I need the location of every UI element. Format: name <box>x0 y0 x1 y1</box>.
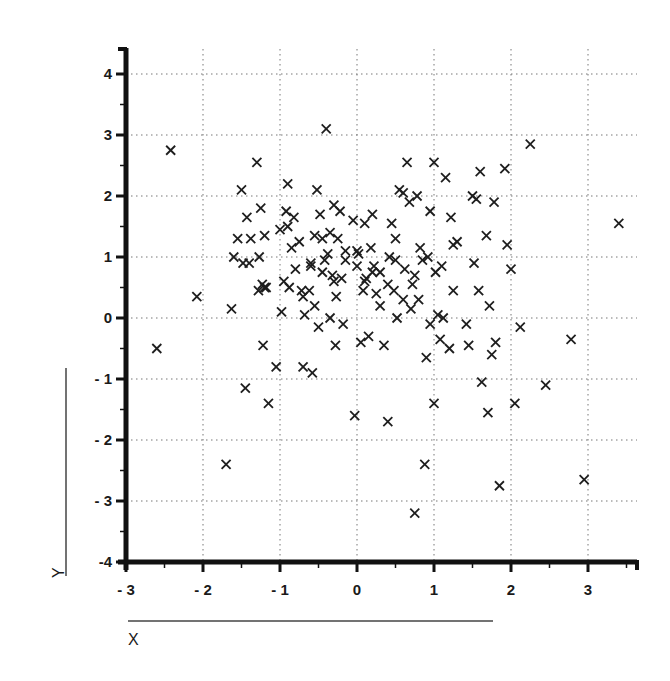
data-point-marker <box>300 310 309 319</box>
data-point-marker <box>233 234 242 243</box>
x-tick-label: - 1 <box>271 581 289 598</box>
data-point-marker <box>376 268 385 277</box>
data-point-marker <box>462 320 471 329</box>
data-point-marker <box>256 204 265 213</box>
data-point-marker <box>383 417 392 426</box>
data-point-marker <box>277 307 286 316</box>
data-point-marker <box>310 231 319 240</box>
data-point-marker <box>507 265 516 274</box>
data-points <box>152 124 623 517</box>
data-point-marker <box>337 274 346 283</box>
data-point-marker <box>282 207 291 216</box>
data-point-marker <box>408 280 417 289</box>
x-tick-label: 0 <box>353 581 361 598</box>
data-point-marker <box>246 234 255 243</box>
data-point-marker <box>387 219 396 228</box>
data-point-marker <box>403 158 412 167</box>
data-point-marker <box>470 259 479 268</box>
data-point-marker <box>166 146 175 155</box>
x-tick-label: 2 <box>507 581 515 598</box>
data-point-marker <box>359 286 368 295</box>
data-point-marker <box>436 335 445 344</box>
data-point-marker <box>328 271 337 280</box>
x-tick-label: 1 <box>430 581 438 598</box>
data-point-marker <box>516 323 525 332</box>
data-point-marker <box>318 268 327 277</box>
x-tick-label: - 3 <box>117 581 135 598</box>
data-point-marker <box>406 304 415 313</box>
data-point-marker <box>474 286 483 295</box>
data-point-marker <box>318 234 327 243</box>
y-tick-label: 3 <box>104 126 112 143</box>
data-point-marker <box>237 185 246 194</box>
data-point-marker <box>399 295 408 304</box>
data-point-marker <box>416 243 425 252</box>
data-point-marker <box>272 362 281 371</box>
y-tick-label: 0 <box>104 309 112 326</box>
data-point-marker <box>341 256 350 265</box>
data-point-marker <box>262 283 271 292</box>
data-point-marker <box>490 198 499 207</box>
data-point-marker <box>426 207 435 216</box>
data-point-marker <box>297 286 306 295</box>
data-point-marker <box>331 341 340 350</box>
data-point-marker <box>222 460 231 469</box>
x-tick-label: 3 <box>584 581 592 598</box>
data-point-marker <box>405 198 414 207</box>
y-axis-title: Y <box>50 567 67 578</box>
data-point-marker <box>580 475 589 484</box>
data-point-marker <box>379 341 388 350</box>
data-point-marker <box>500 164 509 173</box>
data-point-marker <box>464 341 473 350</box>
data-point-marker <box>356 338 365 347</box>
data-point-marker <box>299 292 308 301</box>
data-point-marker <box>376 301 385 310</box>
data-point-marker <box>295 237 304 246</box>
data-point-marker <box>276 225 285 234</box>
data-point-marker <box>283 179 292 188</box>
data-point-marker <box>329 277 338 286</box>
y-tick-label: - 3 <box>94 492 112 509</box>
data-point-marker <box>476 167 485 176</box>
scatter-chart: - 3- 2- 10123-4- 3- 2- 101234 X Y <box>0 0 670 681</box>
data-point-marker <box>364 332 373 341</box>
data-point-marker <box>252 158 261 167</box>
data-point-marker <box>567 335 576 344</box>
data-point-marker <box>383 280 392 289</box>
data-point-marker <box>336 207 345 216</box>
y-tick-label: 4 <box>104 65 113 82</box>
data-point-marker <box>441 173 450 182</box>
data-point-marker <box>437 262 446 271</box>
y-tick-label: 2 <box>104 187 112 204</box>
data-point-marker <box>260 231 269 240</box>
data-point-marker <box>372 289 381 298</box>
data-point-marker <box>445 344 454 353</box>
data-point-marker <box>360 219 369 228</box>
data-point-marker <box>264 399 273 408</box>
data-point-marker <box>420 460 429 469</box>
data-point-marker <box>426 320 435 329</box>
data-point-marker <box>312 185 321 194</box>
data-point-marker <box>308 368 317 377</box>
data-point-marker <box>393 314 402 323</box>
data-point-marker <box>446 213 455 222</box>
data-point-marker <box>245 259 254 268</box>
data-point-marker <box>289 213 298 222</box>
data-point-marker <box>368 210 377 219</box>
data-point-marker <box>491 338 500 347</box>
data-point-marker <box>349 216 358 225</box>
data-point-marker <box>322 124 331 133</box>
data-point-marker <box>400 265 409 274</box>
data-point-marker <box>526 140 535 149</box>
data-point-marker <box>333 234 342 243</box>
data-point-marker <box>287 243 296 252</box>
data-point-marker <box>503 240 512 249</box>
data-point-marker <box>310 301 319 310</box>
data-point-marker <box>366 243 375 252</box>
data-point-marker <box>495 481 504 490</box>
data-point-marker <box>413 192 422 201</box>
data-point-marker <box>482 231 491 240</box>
data-point-marker <box>350 411 359 420</box>
data-point-marker <box>399 188 408 197</box>
x-axis-title: X <box>128 631 139 648</box>
